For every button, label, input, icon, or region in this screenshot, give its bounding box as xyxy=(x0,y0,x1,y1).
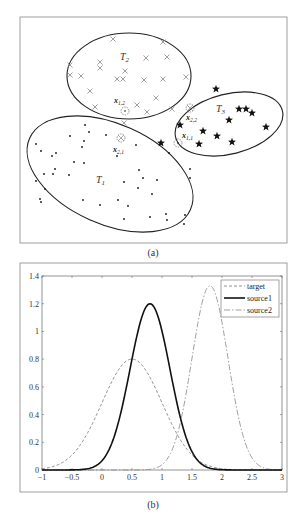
y-tick-label: 0.4 xyxy=(29,411,39,420)
figure: T2 T3 T1 x1,2 x2,1 x2,2 x1,1 (a) 00.20.4… xyxy=(0,0,308,514)
x-tick-label: 2.5 xyxy=(247,473,257,482)
y-tick-label: 0.2 xyxy=(29,438,39,447)
annotation-x21: x2,1 xyxy=(112,145,124,155)
x-tick-label: −0.5 xyxy=(65,473,80,482)
x-tick-label: 0 xyxy=(100,473,104,482)
panel-a-frame xyxy=(20,17,287,243)
label-t3: T3 xyxy=(216,103,226,116)
x-tick-label: 0.5 xyxy=(127,473,137,482)
x-tick-label: 1.5 xyxy=(187,473,197,482)
legend-source2-label: source2 xyxy=(247,306,272,315)
cluster-t3-points xyxy=(157,85,270,148)
x-tick-label: 3 xyxy=(280,473,284,482)
y-tick-label: 0.8 xyxy=(29,355,39,364)
x-tick-label: −1 xyxy=(38,473,47,482)
y-tick-label: 0.6 xyxy=(29,383,39,392)
panel-b: 00.20.40.60.811.21.4 −1−0.500.511.522.53… xyxy=(20,263,287,511)
label-t1: T1 xyxy=(96,174,105,187)
panel-a: T2 T3 T1 x1,2 x2,1 x2,2 x1,1 (a) xyxy=(9,17,289,259)
panel-a-caption: (a) xyxy=(147,247,158,259)
y-tick-label: 1.4 xyxy=(29,272,39,281)
cluster-t2-ellipse xyxy=(67,33,191,119)
cluster-t1-points xyxy=(35,124,191,225)
y-tick-label: 1.2 xyxy=(29,300,39,309)
panel-b-caption: (b) xyxy=(147,499,159,511)
annotation-x12: x1,2 xyxy=(113,96,125,106)
cluster-t2-points xyxy=(68,37,189,126)
x-tick-label: 2 xyxy=(220,473,224,482)
y-tick-label: 1 xyxy=(35,327,39,336)
annotation-x11: x1,1 xyxy=(181,131,193,141)
series-target xyxy=(42,359,282,470)
legend: target source1 source2 xyxy=(221,280,279,317)
label-t2: T2 xyxy=(120,51,130,64)
x-tick-label: 1 xyxy=(160,473,164,482)
cluster-t3-ellipse xyxy=(168,82,289,167)
legend-target-label: target xyxy=(247,282,266,291)
legend-source1-label: source1 xyxy=(247,294,272,303)
annotation-x22: x2,2 xyxy=(185,113,197,123)
